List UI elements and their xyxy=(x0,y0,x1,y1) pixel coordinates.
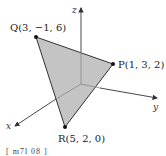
triangle-pqr xyxy=(36,37,113,127)
x-axis xyxy=(15,99,56,126)
y-axis xyxy=(100,88,157,98)
figure-caption: [ m7l 08 ] xyxy=(6,147,48,156)
point-r-label: R(5, 2, 0) xyxy=(58,133,105,144)
z-axis-label: z xyxy=(71,5,77,15)
y-axis-label: y xyxy=(152,102,159,112)
point-p xyxy=(111,62,115,66)
point-q xyxy=(34,35,38,39)
point-r xyxy=(63,125,67,129)
x-axis-label: x xyxy=(6,121,11,131)
triangle-diagram: z y x Q(3, −1, 6) P(1, 3, 2) R(5, 2, 0) xyxy=(0,0,166,156)
point-p-label: P(1, 3, 2) xyxy=(118,59,164,70)
point-q-label: Q(3, −1, 6) xyxy=(10,22,66,33)
